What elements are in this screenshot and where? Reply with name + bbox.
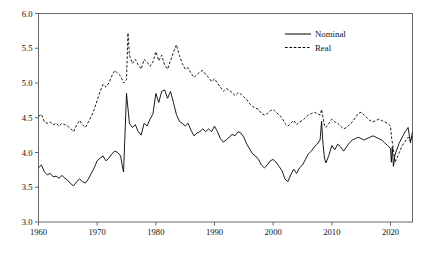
x-tick-label: 1960 xyxy=(30,227,47,237)
line-chart: 3.03.54.04.55.05.56.0 196019701980199020… xyxy=(0,0,427,256)
y-tick-label: 3.5 xyxy=(22,182,33,192)
x-tick-label: 2000 xyxy=(265,227,282,237)
y-tick-label: 4.0 xyxy=(22,148,33,158)
x-tick-label: 2010 xyxy=(323,227,340,237)
x-tick-label: 1980 xyxy=(147,227,164,237)
legend-label-nominal: Nominal xyxy=(315,29,346,39)
y-tick-label: 4.5 xyxy=(22,113,33,123)
chart-container: 3.03.54.04.55.05.56.0 196019701980199020… xyxy=(0,0,427,256)
y-tick-label: 5.5 xyxy=(22,43,33,53)
y-tick-label: 5.0 xyxy=(22,78,33,88)
x-tick-label: 1990 xyxy=(206,227,223,237)
y-tick-label: 6.0 xyxy=(22,9,33,19)
x-tick-label: 1970 xyxy=(89,227,106,237)
legend-label-real: Real xyxy=(315,43,332,53)
x-tick-label: 2020 xyxy=(382,227,399,237)
y-tick-label: 3.0 xyxy=(22,217,33,227)
